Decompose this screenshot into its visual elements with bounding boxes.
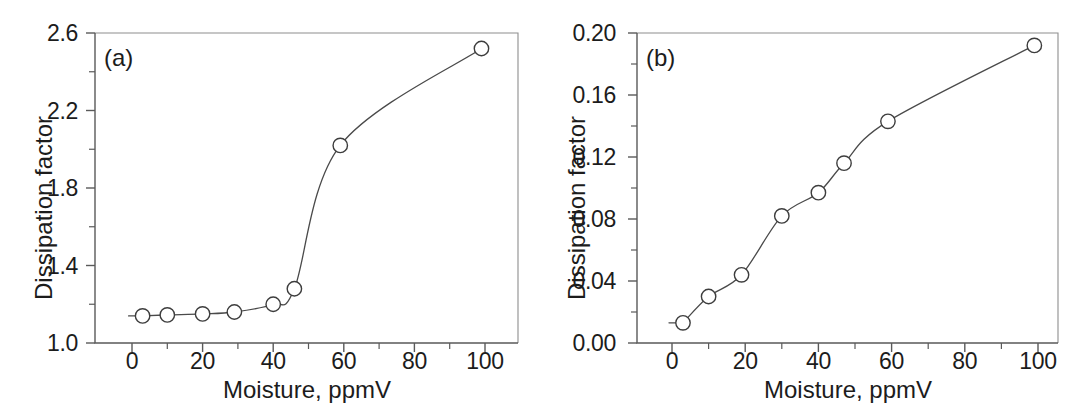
data-series-curve <box>683 45 1034 322</box>
x-tick-label: 80 <box>952 348 977 375</box>
chart-panel-a: (a) Moisture, ppmV Dissipation factor 1.… <box>0 0 540 411</box>
panel-label-a: (a) <box>104 44 133 72</box>
x-tick-label: 20 <box>733 348 758 375</box>
plot-frame <box>95 33 518 343</box>
chart-panel-b: (b) Moisture, ppmV Dissipation factor 0.… <box>541 0 1081 411</box>
data-point-marker <box>837 156 851 170</box>
x-tick-label: 40 <box>806 348 831 375</box>
y-tick-label: 0.08 <box>541 206 616 233</box>
y-tick-label: 1.4 <box>0 252 78 279</box>
y-tick-label: 0.00 <box>541 330 616 357</box>
data-point-marker <box>1027 38 1041 52</box>
data-point-marker <box>266 297 280 311</box>
figure-two-panel-dissipation-factor: (a) Moisture, ppmV Dissipation factor 1.… <box>0 0 1081 411</box>
x-tick-label: 100 <box>466 348 503 375</box>
data-point-marker <box>775 209 789 223</box>
data-point-marker <box>881 114 895 128</box>
y-tick-label: 0.16 <box>541 82 616 109</box>
plot-axes <box>95 33 518 343</box>
x-tick-label: 20 <box>190 348 215 375</box>
data-point-marker <box>135 309 149 323</box>
x-tick-label: 60 <box>879 348 904 375</box>
y-tick-label: 0.04 <box>541 268 616 295</box>
y-tick-label: 0.12 <box>541 144 616 171</box>
y-tick-label: 0.20 <box>541 20 616 47</box>
y-tick-label: 1.0 <box>0 330 78 357</box>
x-tick-label: 80 <box>402 348 427 375</box>
x-tick-label: 0 <box>666 348 679 375</box>
data-point-marker <box>333 138 347 152</box>
y-tick-label: 2.6 <box>0 20 78 47</box>
data-series-curve <box>143 49 482 316</box>
data-point-marker <box>474 41 488 55</box>
plot-frame <box>637 33 1058 343</box>
data-point-marker <box>160 308 174 322</box>
x-tick-label: 60 <box>331 348 356 375</box>
data-point-marker <box>811 185 825 199</box>
x-axis-title-a: Moisture, ppmV <box>223 376 391 404</box>
x-axis-title-b: Moisture, ppmV <box>764 376 932 404</box>
data-point-marker <box>287 282 301 296</box>
data-point-marker <box>227 305 241 319</box>
data-point-marker <box>195 307 209 321</box>
y-tick-label: 2.2 <box>0 97 78 124</box>
x-tick-label: 100 <box>1019 348 1056 375</box>
y-tick-label: 1.8 <box>0 175 78 202</box>
data-point-marker <box>676 316 690 330</box>
x-tick-label: 0 <box>126 348 139 375</box>
panel-label-b: (b) <box>646 44 675 72</box>
data-point-marker <box>701 289 715 303</box>
x-tick-label: 40 <box>261 348 286 375</box>
data-point-marker <box>734 268 748 282</box>
plot-axes <box>637 33 1058 343</box>
